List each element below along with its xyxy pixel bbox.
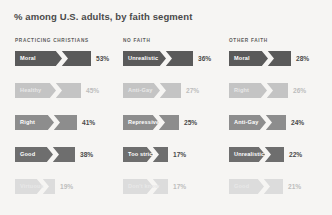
bar-row[interactable]: Anti-Gay27% xyxy=(123,83,227,98)
bar-value-label: 53% xyxy=(96,51,109,66)
bar-row[interactable]: Good38% xyxy=(15,147,121,162)
bar-category-label: Right xyxy=(234,83,249,98)
bar-category-label: Moral xyxy=(234,51,250,66)
chart-row: Healthy45% xyxy=(15,83,121,115)
chart-row: Moral28% xyxy=(229,51,329,83)
bar[interactable]: Virtuous xyxy=(15,179,55,194)
bar-value-label: 27% xyxy=(186,83,199,98)
bar[interactable]: Too strict xyxy=(123,147,168,162)
bar-category-label: Too strict xyxy=(128,147,155,162)
chevron-right-icon xyxy=(47,115,60,130)
chart-row: Repressive25% xyxy=(123,115,227,147)
bar[interactable]: Moral xyxy=(15,51,91,66)
chevron-right-icon xyxy=(259,115,272,130)
chart-row: Anti-Gay24% xyxy=(229,115,329,147)
bar-value-label: 38% xyxy=(80,147,93,162)
bar-row[interactable]: Moral53% xyxy=(15,51,121,66)
bar-row[interactable]: Repressive25% xyxy=(123,115,227,130)
bar-row[interactable]: Moral28% xyxy=(229,51,329,66)
bar-row[interactable]: Right26% xyxy=(229,83,329,98)
chart-row: Virtuous19% xyxy=(15,179,121,211)
bar-category-label: Good xyxy=(20,147,35,162)
bar-row[interactable]: Unrealistic36% xyxy=(123,51,227,66)
bar-value-label: 45% xyxy=(86,83,99,98)
bar[interactable]: Right xyxy=(229,83,288,98)
bar[interactable]: Unrealistic xyxy=(229,147,284,162)
chart-row: Right41% xyxy=(15,115,121,147)
chart-row: Good38% xyxy=(15,147,121,179)
bar-value-label: 19% xyxy=(60,179,73,194)
chart-row: Don't know17% xyxy=(123,179,227,211)
bar-category-label: Right xyxy=(20,115,35,130)
column-header-other-faith: OTHER FAITH xyxy=(229,36,329,46)
bar-value-label: 24% xyxy=(291,115,304,130)
bar-row[interactable]: Right41% xyxy=(15,115,121,130)
bar-category-label: Good xyxy=(234,179,249,194)
bar-row[interactable]: Don't know17% xyxy=(123,179,227,194)
bar-category-label: Repressive xyxy=(128,115,159,130)
bar-rows-practicing-christians: Moral53%Healthy45%Right41%Good38%Virtuou… xyxy=(15,51,121,211)
chart-row: Anti-Gay27% xyxy=(123,83,227,115)
chart-row: Good21% xyxy=(229,179,329,211)
bar-category-label: Anti-Gay xyxy=(234,115,259,130)
chevron-right-icon xyxy=(257,179,270,194)
bar[interactable]: Unrealistic xyxy=(123,51,193,66)
chart-row: Unrealistic22% xyxy=(229,147,329,179)
bar-category-label: Unrealistic xyxy=(234,147,264,162)
chevron-right-icon xyxy=(260,83,273,98)
bar[interactable]: Anti-Gay xyxy=(229,115,286,130)
chevron-right-icon xyxy=(55,51,68,66)
bar-category-label: Unrealistic xyxy=(128,51,158,66)
bar-row[interactable]: Good21% xyxy=(229,179,329,194)
bar-value-label: 25% xyxy=(184,115,197,130)
bar-value-label: 26% xyxy=(293,83,306,98)
bar-value-label: 36% xyxy=(198,51,211,66)
bar-value-label: 17% xyxy=(173,179,186,194)
chevron-right-icon xyxy=(49,83,62,98)
bar-category-label: Anti-Gay xyxy=(128,83,153,98)
bar[interactable]: Moral xyxy=(229,51,291,66)
bar-value-label: 21% xyxy=(288,179,301,194)
bar[interactable]: Healthy xyxy=(15,83,81,98)
chart-row: Right26% xyxy=(229,83,329,115)
chart-row: Too strict17% xyxy=(123,147,227,179)
segment-column-practicing-christians: PRACTICING CHRISTIANS Moral53%Healthy45%… xyxy=(15,36,121,211)
bar-row[interactable]: Anti-Gay24% xyxy=(229,115,329,130)
bar-rows-no-faith: Unrealistic36%Anti-Gay27%Repressive25%To… xyxy=(123,51,227,211)
chart-row: Moral53% xyxy=(15,51,121,83)
segment-column-other-faith: OTHER FAITH Moral28%Right26%Anti-Gay24%U… xyxy=(229,36,329,211)
bar-value-label: 22% xyxy=(289,147,302,162)
bar[interactable]: Good xyxy=(15,147,75,162)
bar[interactable]: Repressive xyxy=(123,115,179,130)
bar-value-label: 41% xyxy=(82,115,95,130)
bar-category-label: Virtuous xyxy=(20,179,44,194)
bar-category-label: Moral xyxy=(20,51,36,66)
chevron-right-icon xyxy=(153,83,166,98)
bar-value-label: 28% xyxy=(296,51,309,66)
faith-segment-columns: PRACTICING CHRISTIANS Moral53%Healthy45%… xyxy=(0,36,332,211)
bar[interactable]: Anti-Gay xyxy=(123,83,181,98)
chevron-right-icon xyxy=(46,147,59,162)
page-title: % among U.S. adults, by faith segment xyxy=(14,11,192,22)
bar-row[interactable]: Too strict17% xyxy=(123,147,227,162)
column-header-practicing-christians: PRACTICING CHRISTIANS xyxy=(15,36,121,46)
bar[interactable]: Right xyxy=(15,115,77,130)
bar-value-label: 17% xyxy=(173,147,186,162)
bar-rows-other-faith: Moral28%Right26%Anti-Gay24%Unrealistic22… xyxy=(229,51,329,211)
column-header-no-faith: NO FAITH xyxy=(123,36,227,46)
bar[interactable]: Good xyxy=(229,179,283,194)
bar-row[interactable]: Unrealistic22% xyxy=(229,147,329,162)
bar-category-label: Don't know xyxy=(128,179,159,194)
chevron-right-icon xyxy=(261,51,274,66)
bar-category-label: Healthy xyxy=(20,83,41,98)
bar-row[interactable]: Virtuous19% xyxy=(15,179,121,194)
bar-row[interactable]: Healthy45% xyxy=(15,83,121,98)
bar[interactable]: Don't know xyxy=(123,179,168,194)
segment-column-no-faith: NO FAITH Unrealistic36%Anti-Gay27%Repres… xyxy=(123,36,227,211)
chart-row: Unrealistic36% xyxy=(123,51,227,83)
chevron-right-icon xyxy=(159,51,172,66)
